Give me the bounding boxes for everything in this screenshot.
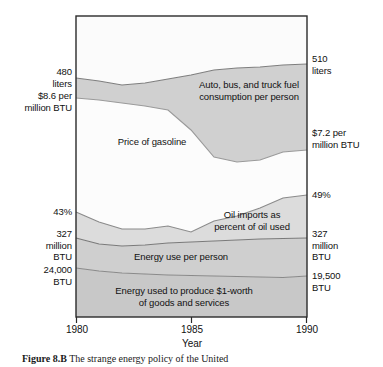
x-tick-label-1985: 1985 [171,324,213,336]
label-gas-price-end: $7.2 per million BTU [312,127,382,150]
figure-caption-text: The strange energy policy of the United [69,353,228,364]
label-energy-dollar-band: Energy used to produce $1-worth of goods… [86,285,282,308]
label-energy-dollar-start: 24,000 BTU [8,264,72,287]
x-axis-title: Year [156,338,228,350]
label-oil-imports-end: 49% [312,189,380,201]
label-gas-price-start: $8.6 per million BTU [0,90,72,113]
label-fuel-end: 510 liters [312,53,380,76]
figure-caption: Figure 8.B The strange energy policy of … [22,353,362,367]
label-gasoline-band: Price of gasoline [92,136,212,148]
label-fuel-start: 480 liters [8,66,72,89]
label-energy-use-band: Energy use per person [106,251,256,263]
label-fuel-band: Auto, bus, and truck fuel consumption pe… [186,79,312,102]
x-tick-label-1990: 1990 [286,324,328,336]
label-oil-imports-start: 43% [8,206,72,218]
x-tick-label-1980: 1980 [56,324,98,336]
label-energy-use-start: 327 million BTU [8,228,72,263]
label-energy-dollar-end: 19,500 BTU [312,270,380,293]
figure-caption-number: Figure 8.B [22,353,67,364]
label-energy-use-end: 327 million BTU [312,228,380,263]
label-oil-imports-band: Oil imports as percent of oil used [196,209,308,232]
figure-container: 480 liters $8.6 per million BTU 43% 327 … [0,0,383,367]
